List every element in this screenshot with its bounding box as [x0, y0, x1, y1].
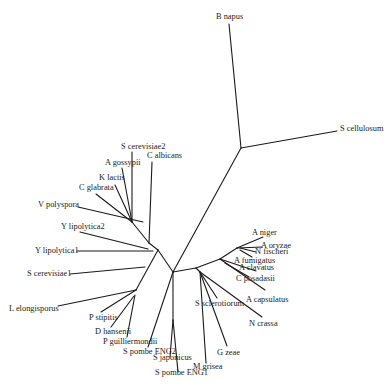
- branch-c-albicans: [149, 162, 152, 243]
- branch-s-pombe-eng1: [173, 320, 178, 372]
- taxon-label-v-polyspora: V polyspora: [38, 200, 79, 209]
- taxon-label-n-crassa: N crassa: [249, 319, 278, 328]
- branch-yeast-stem: [158, 250, 173, 272]
- taxon-label-a-fumigatus: A fumigatus: [234, 256, 275, 265]
- branch-s-pombe-eng2: [148, 272, 173, 347]
- branch-d-hansenii: [111, 296, 134, 327]
- branch-y-lipolytica2: [80, 232, 148, 249]
- taxon-label-a-capsulatus: A capsulatus: [246, 295, 289, 304]
- branch-pezizo-stem: [173, 268, 196, 272]
- branch-s-cerevisiae1: [70, 267, 145, 274]
- taxon-label-b-napus: B napus: [216, 12, 243, 21]
- branch-cug-clade: [136, 250, 158, 290]
- branch-sordario-node: [196, 268, 200, 272]
- branch-yeast-inner: [149, 243, 158, 250]
- taxon-label-s-cerevisiae2: S cerevisiae2: [121, 142, 165, 151]
- taxon-label-l-elongisporus: L elongisporus: [9, 304, 59, 313]
- branch-b-napus: [229, 24, 241, 148]
- taxon-label-c-glabrata: C glabrata: [79, 183, 114, 192]
- taxon-label-p-guilliermondii: P guilliermondii: [103, 337, 158, 346]
- taxon-label-g-zeae: G zeae: [217, 348, 240, 357]
- taxon-label-a-gossypii: A gossypii: [105, 158, 141, 167]
- taxon-label-c-posadasii: C posadasii: [236, 274, 276, 283]
- branch-saccharomycetaceae-node: [132, 222, 149, 243]
- taxon-label-p-stipitis: P stipitis: [89, 313, 118, 322]
- branch-eurotio-stem: [196, 259, 220, 268]
- phylogenetic-tree: B napusS cellulosumS cerevisiae2C albica…: [0, 0, 391, 387]
- taxon-label-s-cerevisiae1: S cerevisiae1: [27, 269, 71, 278]
- taxon-label-y-lipolytica1: Y lipolytica1: [35, 246, 79, 255]
- taxon-label-a-oryzae: A oryzae: [261, 241, 291, 250]
- taxon-labels: B napusS cellulosumS cerevisiae2C albica…: [9, 12, 384, 377]
- taxon-label-a-niger: A niger: [252, 228, 277, 237]
- taxon-label-s-cellulosum: S cellulosum: [340, 124, 384, 133]
- taxon-label-k-lactis: K lactis: [99, 173, 125, 182]
- taxon-label-d-hansenii: D hansenii: [95, 327, 132, 336]
- taxon-label-c-albicans: C albicans: [147, 151, 182, 160]
- branch-plant-bacteria-stem: [173, 148, 241, 272]
- branch-s-cellulosum: [241, 131, 337, 148]
- taxon-label-s-sclerotiorum: S sclerotiorum: [195, 299, 245, 308]
- taxon-label-y-lipolytica2: Y lipolytica2: [61, 222, 105, 231]
- taxon-label-s-japonicus: S japonicus: [153, 353, 192, 362]
- taxon-label-m-grisea: M grisea: [193, 362, 223, 371]
- branch-v-polyspora: [78, 207, 143, 222]
